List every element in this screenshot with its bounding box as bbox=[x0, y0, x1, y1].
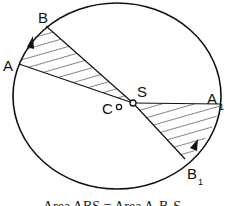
label-B: B bbox=[38, 9, 48, 26]
center-C-marker bbox=[116, 104, 121, 109]
focus-S-marker bbox=[130, 100, 136, 106]
orbit-diagram: A B S C A 1 B 1 Area ABS = Area A₁B₁S bbox=[0, 0, 225, 206]
caption: Area ABS = Area A₁B₁S bbox=[43, 199, 181, 206]
label-S: S bbox=[137, 83, 147, 100]
label-A1: A bbox=[207, 90, 217, 107]
label-B1-subscript: 1 bbox=[198, 177, 203, 187]
label-A: A bbox=[3, 57, 13, 74]
label-B1: B bbox=[187, 165, 197, 182]
label-A1-subscript: 1 bbox=[219, 102, 224, 112]
motion-arrow-AB-icon bbox=[27, 36, 34, 49]
swept-area-ABS bbox=[19, 26, 133, 103]
label-C: C bbox=[102, 100, 113, 117]
